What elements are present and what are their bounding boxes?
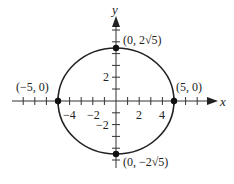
point-right xyxy=(171,98,177,104)
x-axis-label: x xyxy=(219,94,226,109)
y-axis-label: y xyxy=(110,2,118,17)
tick-label-x-2: 2 xyxy=(136,108,142,122)
x-axis-arrow-icon xyxy=(207,97,218,105)
left-point-label: (−5, 0) xyxy=(16,80,49,94)
point-top xyxy=(113,45,119,51)
point-left xyxy=(55,98,61,104)
ellipse-diagram: y x (0, 2√5) (0, −2√5) (−5, 0) (5, 0) −4… xyxy=(0,0,234,184)
top-point-label: (0, 2√5) xyxy=(123,33,162,47)
y-axis-arrow-icon xyxy=(112,16,120,27)
bottom-point-label: (0, −2√5) xyxy=(123,155,168,169)
right-point-label: (5, 0) xyxy=(176,80,202,94)
tick-label-y-2: 2 xyxy=(103,70,109,84)
tick-label-x-4: 4 xyxy=(159,108,165,122)
point-bottom xyxy=(113,151,119,157)
tick-label-y-neg2: −2 xyxy=(96,118,109,132)
tick-label-x-neg4: −4 xyxy=(63,108,76,122)
